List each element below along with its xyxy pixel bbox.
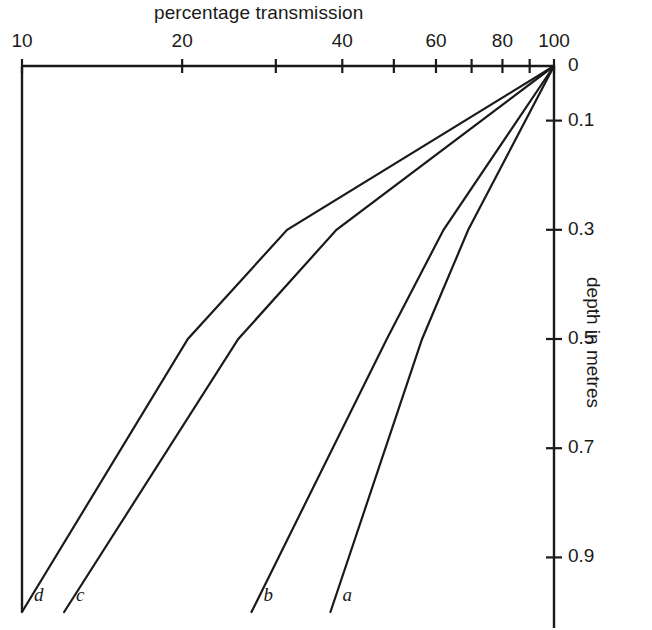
x-tick-label-40: 40: [332, 30, 353, 52]
series-label-c: c: [76, 584, 84, 606]
axes: [22, 66, 554, 628]
transmission-depth-chart: percentage transmission 102040608010000.…: [0, 0, 652, 630]
x-tick-label-60: 60: [425, 30, 446, 52]
series-line-d: [22, 66, 554, 612]
x-tick-label-20: 20: [172, 30, 193, 52]
series-line-a: [330, 66, 554, 612]
data-series: [22, 66, 554, 612]
series-label-a: a: [342, 584, 352, 606]
x-tick-label-100: 100: [538, 30, 570, 52]
y-tick-label-0.3: 0.3: [568, 218, 594, 240]
plot-area: [0, 0, 652, 630]
series-label-b: b: [263, 584, 273, 606]
y-tick-label-0.9: 0.9: [568, 545, 594, 567]
y-axis-title: depth in metres: [582, 277, 604, 408]
y-tick-label-0.7: 0.7: [568, 436, 594, 458]
y-tick-label-0: 0: [568, 54, 579, 76]
series-line-b: [251, 66, 554, 612]
x-tick-label-80: 80: [492, 30, 513, 52]
y-tick-label-0.1: 0.1: [568, 109, 594, 131]
series-line-c: [64, 66, 554, 612]
x-tick-label-10: 10: [11, 30, 32, 52]
series-label-d: d: [34, 584, 44, 606]
